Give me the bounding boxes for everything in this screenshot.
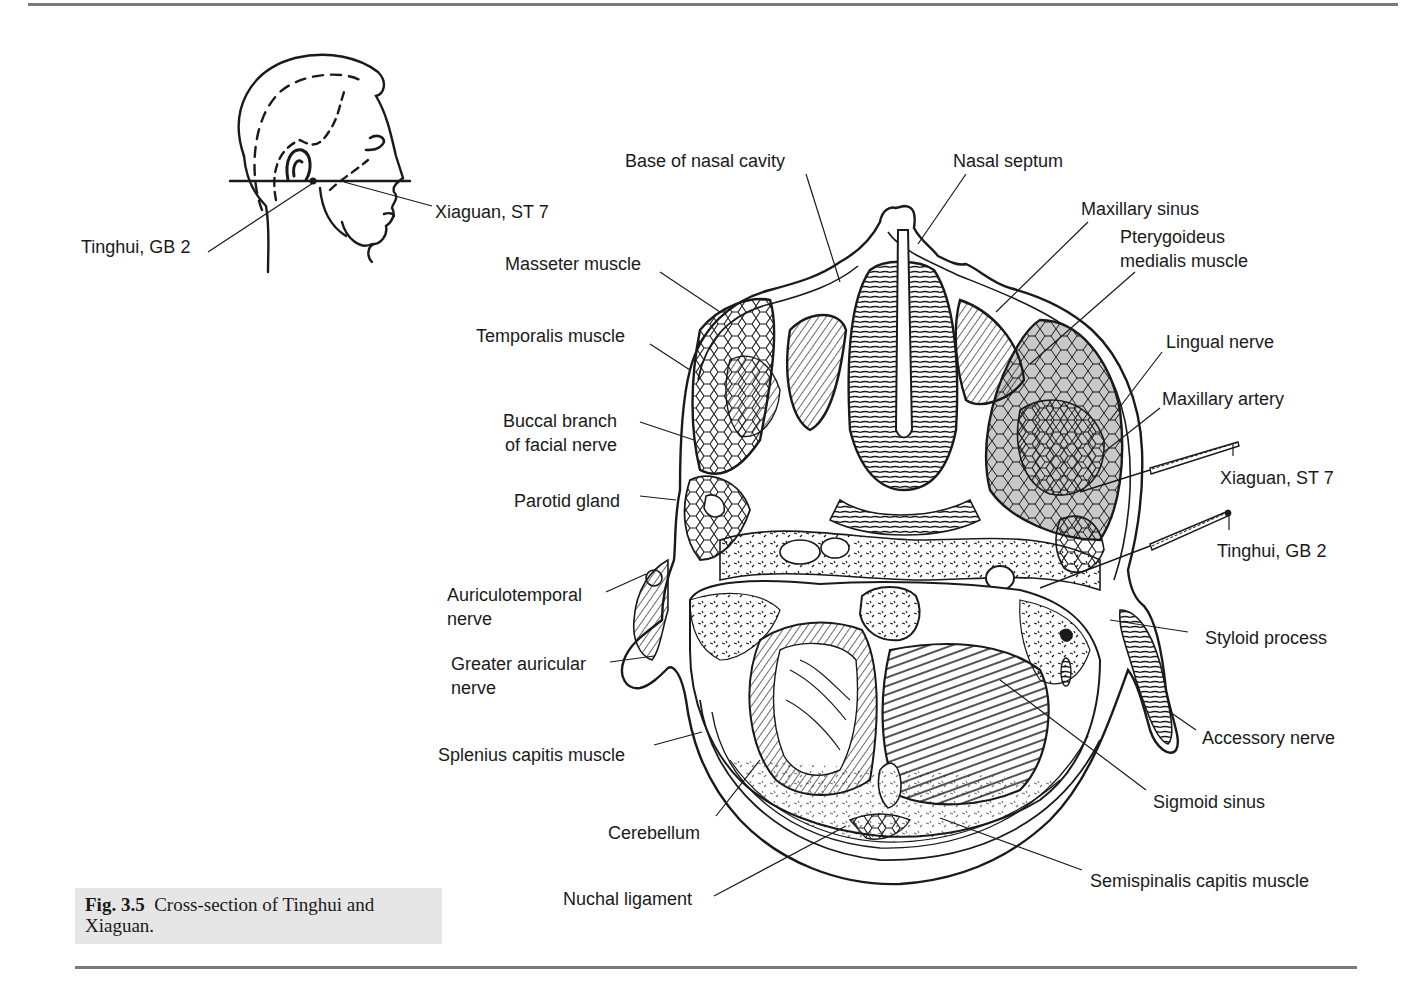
figure-caption: Fig. 3.5 Cross-section of Tinghui and Xi… [75, 888, 442, 944]
label-semispinalis-capitis: Semispinalis capitis muscle [1090, 870, 1309, 892]
label-base-of-nasal-cavity: Base of nasal cavity [625, 150, 785, 172]
label-maxillary-artery: Maxillary artery [1162, 388, 1284, 410]
label-lingual-nerve: Lingual nerve [1166, 331, 1274, 353]
label-pterygoideus-line1: Pterygoideus [1120, 226, 1225, 248]
label-sigmoid-sinus: Sigmoid sinus [1153, 791, 1265, 813]
label-pterygoideus-line2: medialis muscle [1120, 250, 1248, 272]
label-masseter-muscle: Masseter muscle [505, 253, 641, 275]
label-temporalis-muscle: Temporalis muscle [476, 325, 625, 347]
label-greater-auricular-line1: Greater auricular [451, 653, 586, 675]
label-buccal-branch-line1: Buccal branch [503, 410, 617, 432]
label-auriculotemporal-line1: Auriculotemporal [447, 584, 582, 606]
inset-label-tinghui: Tinghui, GB 2 [81, 236, 190, 258]
label-splenius-capitis: Splenius capitis muscle [438, 744, 625, 766]
head-profile-inset [230, 55, 410, 272]
label-xiaguan-st7: Xiaguan, ST 7 [1220, 467, 1334, 489]
anatomy-illustration [0, 0, 1426, 982]
label-buccal-branch-line2: of facial nerve [505, 434, 617, 456]
label-auriculotemporal-line2: nerve [447, 608, 492, 630]
figure-number: Fig. 3.5 [85, 894, 145, 915]
label-tinghui-gb2: Tinghui, GB 2 [1217, 540, 1326, 562]
label-greater-auricular-line2: nerve [451, 677, 496, 699]
label-cerebellum: Cerebellum [608, 822, 700, 844]
label-parotid-gland: Parotid gland [514, 490, 620, 512]
label-accessory-nerve: Accessory nerve [1202, 727, 1335, 749]
label-styloid-process: Styloid process [1205, 627, 1327, 649]
label-maxillary-sinus: Maxillary sinus [1081, 198, 1199, 220]
label-nuchal-ligament: Nuchal ligament [563, 888, 692, 910]
inset-label-xiaguan: Xiaguan, ST 7 [435, 201, 549, 223]
label-nasal-septum: Nasal septum [953, 150, 1063, 172]
